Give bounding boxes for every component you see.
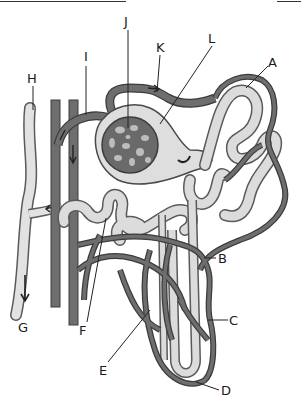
label-f: F <box>79 324 86 337</box>
label-b: B <box>218 252 227 265</box>
label-e: E <box>99 364 107 377</box>
glomerulus <box>102 117 158 173</box>
nephron-illustration <box>0 0 301 407</box>
label-j: J <box>124 15 128 28</box>
label-i: I <box>84 50 88 63</box>
label-l: L <box>208 32 215 45</box>
label-g: G <box>18 321 28 334</box>
label-c: C <box>229 314 238 327</box>
label-k: K <box>156 41 165 54</box>
label-d: D <box>221 384 231 397</box>
label-a: A <box>268 56 277 69</box>
label-h: H <box>27 72 37 85</box>
